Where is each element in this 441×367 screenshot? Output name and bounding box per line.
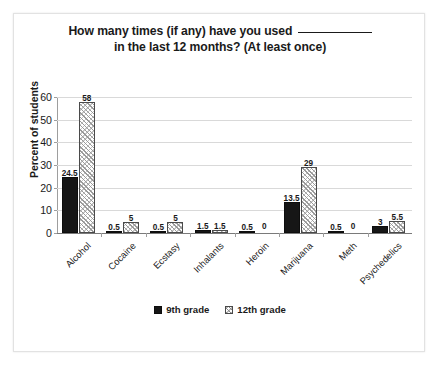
x-tick-mark [279, 233, 280, 237]
bar-value-label: 0 [262, 222, 267, 231]
x-tick-label-inhalants: Inhalants [191, 240, 226, 275]
bar-value-label: 3 [378, 218, 383, 227]
y-tick-label: 20 [40, 182, 52, 194]
bar-9th-grade[interactable]: 3 [372, 226, 388, 233]
y-tick-label: 30 [40, 159, 52, 171]
bar-group: 0.500 [323, 97, 367, 233]
bar-12th-grade[interactable]: 1.5 [212, 230, 228, 233]
x-tick-mark [190, 233, 191, 237]
bar-group: 13.529 [279, 97, 323, 233]
y-tick-label: 0 [46, 227, 52, 239]
y-tick-label: 40 [40, 136, 52, 148]
bar-9th-grade[interactable]: 13.5 [284, 202, 300, 233]
bar-group: 0.500 [235, 97, 279, 233]
x-tick-label-heroin: Heroin [243, 240, 270, 267]
y-tick-label: 50 [40, 114, 52, 126]
y-tick-label: 10 [40, 204, 52, 216]
x-tick-label-ecstasy: Ecstasy [151, 240, 182, 271]
bar-9th-grade[interactable]: 0.5 [150, 231, 166, 233]
chart-title-line-2: in the last 12 months? (At least once) [14, 39, 426, 55]
bar-12th-grade[interactable]: 5 [167, 222, 183, 233]
x-tick-mark [235, 233, 236, 237]
bar-value-label: 0.5 [241, 223, 252, 232]
bar-group: 35.5 [368, 97, 412, 233]
bar-value-label: 0.5 [108, 223, 119, 232]
legend-swatch-icon [225, 306, 233, 314]
y-tick-mark [54, 233, 57, 234]
x-tick-label-alcohol: Alcohol [63, 240, 93, 270]
x-tick-label-cocaine: Cocaine [105, 240, 137, 272]
bar-12th-grade[interactable]: 58 [79, 102, 95, 233]
x-tick-mark [101, 233, 102, 237]
bar-group: 0.55 [101, 97, 145, 233]
y-axis-title: Percent of students [29, 65, 40, 195]
x-tick-mark [368, 233, 369, 237]
legend-swatch-icon [154, 306, 162, 314]
bar-9th-grade[interactable]: 0.5 [328, 231, 344, 233]
legend-entry-9th-grade[interactable]: 9th grade [154, 304, 209, 315]
bar-value-label: 0.5 [330, 223, 341, 232]
bar-value-label: 1.5 [197, 222, 208, 231]
bar-group: 0.55 [146, 97, 190, 233]
bar-9th-grade[interactable]: 1.5 [195, 230, 211, 233]
bar-value-label: 0 [351, 222, 356, 231]
bar-value-label: 24.5 [62, 169, 78, 178]
legend-label: 9th grade [166, 304, 209, 315]
bar-12th-grade[interactable]: 5 [123, 222, 139, 233]
bar-value-label: 5 [173, 214, 178, 223]
x-tick-label-psychedelics: Psychedelics [357, 240, 403, 286]
title-blank-underline [298, 32, 372, 33]
bar-12th-grade[interactable]: 5.5 [389, 221, 405, 233]
bar-9th-grade[interactable]: 0.5 [239, 231, 255, 233]
x-tick-label-marijuana: Marijuana [278, 240, 315, 277]
bar-value-label: 58 [82, 94, 91, 103]
x-tick-label-meth: Meth [337, 240, 360, 263]
legend-label: 12th grade [237, 304, 286, 315]
bar-9th-grade[interactable]: 0.5 [106, 231, 122, 233]
bar-value-label: 1.5 [214, 222, 225, 231]
bar-value-label: 13.5 [284, 194, 300, 203]
chart-legend: 9th grade12th grade [14, 304, 426, 315]
bar-group: 24.558 [57, 97, 101, 233]
x-tick-mark [323, 233, 324, 237]
bar-12th-grade[interactable]: 29 [301, 167, 317, 233]
chart-title: How many times (if any) have you used in… [14, 23, 426, 55]
y-tick-label: 60 [40, 91, 52, 103]
x-tick-mark [146, 233, 147, 237]
chart-title-line-1-text: How many times (if any) have you used [68, 24, 295, 38]
bar-value-label: 5.5 [392, 213, 403, 222]
bar-value-label: 29 [304, 159, 313, 168]
bar-value-label: 0.5 [153, 223, 164, 232]
bar-value-label: 5 [129, 214, 134, 223]
chart-title-line-1: How many times (if any) have you used [14, 23, 426, 39]
legend-entry-12th-grade[interactable]: 12th grade [225, 304, 286, 315]
bar-9th-grade[interactable]: 24.5 [62, 177, 78, 233]
chart-frame: How many times (if any) have you used in… [13, 13, 425, 352]
bar-group: 1.51.5 [190, 97, 234, 233]
plot-area: 0102030405060 24.5580.550.551.51.50.5001… [57, 97, 412, 233]
